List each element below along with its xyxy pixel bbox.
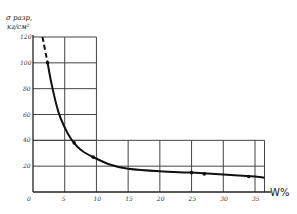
- x-tick-label: 30: [220, 195, 228, 202]
- extrapolation-dashed-line: [43, 37, 48, 63]
- y-tick-label: 60: [23, 111, 31, 118]
- x-tick-label: 25: [188, 195, 197, 202]
- y-tick-label: 120: [20, 33, 32, 40]
- x-tick-label: 15: [125, 195, 133, 202]
- y-tick-label: 20: [22, 162, 31, 169]
- y-tick-label: 40: [22, 136, 31, 143]
- chart: 0510152025303520406080100120 σ разр, кг/…: [0, 0, 297, 214]
- y-axis-unit-label: кг/см²: [7, 23, 30, 31]
- gridlines: [33, 37, 265, 192]
- x-tick-label: 5: [62, 195, 66, 202]
- data-series: [43, 37, 265, 178]
- fitted-curve: [48, 63, 265, 178]
- x-tick-label: 20: [156, 195, 165, 202]
- y-tick-label: 100: [20, 59, 32, 66]
- y-tick-label: 80: [23, 85, 31, 92]
- tick-labels: 0510152025303520406080100120: [20, 33, 260, 202]
- x-tick-label: 35: [252, 195, 260, 202]
- axes: [33, 35, 271, 192]
- x-tick-label: 10: [93, 195, 101, 202]
- x-tick-label: 0: [27, 195, 31, 202]
- x-axis-label: W%: [270, 187, 289, 198]
- y-axis-label: σ разр,: [6, 14, 32, 22]
